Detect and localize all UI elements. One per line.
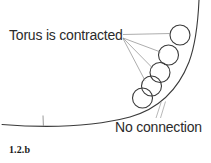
torus-contraction-diagram xyxy=(0,0,211,163)
boundary-curve xyxy=(2,0,199,126)
torus-circle-chain xyxy=(133,25,191,108)
torus-circle xyxy=(150,63,170,83)
torus-circle xyxy=(170,25,190,45)
leader-line xyxy=(123,38,153,68)
torus-circle xyxy=(159,45,179,65)
figure-canvas: Torus is contracted No connection 1.2.b xyxy=(0,0,211,163)
leader-line xyxy=(161,102,166,119)
torus-label-leader-lines xyxy=(123,34,171,81)
label-no-connection: No connection xyxy=(115,120,202,134)
label-torus-is-contracted: Torus is contracted xyxy=(9,28,123,42)
figure-caption: 1.2.b xyxy=(9,144,30,155)
leader-line xyxy=(123,34,171,35)
